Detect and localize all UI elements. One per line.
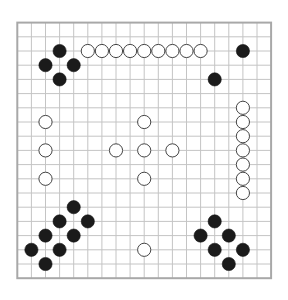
board-intersection[interactable] (109, 115, 123, 129)
board-intersection[interactable] (123, 58, 137, 72)
board-intersection[interactable] (53, 257, 67, 271)
board-intersection[interactable] (81, 229, 95, 243)
board-intersection[interactable] (38, 72, 52, 86)
board-intersection[interactable] (95, 87, 109, 101)
board-intersection[interactable] (123, 101, 137, 115)
board-intersection[interactable] (123, 30, 137, 44)
board-intersection[interactable] (95, 30, 109, 44)
board-intersection[interactable] (95, 186, 109, 200)
board-intersection[interactable] (95, 229, 109, 243)
board-intersection[interactable] (10, 158, 24, 172)
board-intersection[interactable] (81, 101, 95, 115)
board-intersection[interactable] (208, 87, 222, 101)
board-intersection[interactable] (151, 200, 165, 214)
board-intersection[interactable] (222, 72, 236, 86)
board-intersection[interactable] (67, 87, 81, 101)
board-intersection[interactable] (151, 72, 165, 86)
board-intersection[interactable] (10, 214, 24, 228)
board-intersection[interactable] (38, 214, 52, 228)
board-intersection[interactable] (151, 257, 165, 271)
board-intersection[interactable] (95, 158, 109, 172)
board-intersection[interactable] (137, 229, 151, 243)
board-intersection[interactable] (123, 158, 137, 172)
board-intersection[interactable] (95, 58, 109, 72)
board-intersection[interactable] (109, 158, 123, 172)
board-intersection[interactable] (53, 200, 67, 214)
board-intersection[interactable] (179, 257, 193, 271)
board-intersection[interactable] (264, 101, 278, 115)
board-intersection[interactable] (95, 101, 109, 115)
board-intersection[interactable] (81, 158, 95, 172)
board-intersection[interactable] (250, 172, 264, 186)
board-intersection[interactable] (10, 257, 24, 271)
board-intersection[interactable] (194, 72, 208, 86)
board-intersection[interactable] (81, 143, 95, 157)
board-intersection[interactable] (67, 186, 81, 200)
board-intersection[interactable] (53, 16, 67, 30)
board-intersection[interactable] (109, 101, 123, 115)
board-intersection[interactable] (250, 101, 264, 115)
board-intersection[interactable] (53, 271, 67, 285)
board-intersection[interactable] (81, 172, 95, 186)
board-intersection[interactable] (208, 115, 222, 129)
board-intersection[interactable] (95, 271, 109, 285)
board-intersection[interactable] (109, 58, 123, 72)
board-intersection[interactable] (123, 87, 137, 101)
board-intersection[interactable] (222, 243, 236, 257)
board-intersection[interactable] (179, 243, 193, 257)
board-intersection[interactable] (222, 158, 236, 172)
board-intersection[interactable] (208, 257, 222, 271)
board-intersection[interactable] (109, 72, 123, 86)
board-intersection[interactable] (81, 58, 95, 72)
board-intersection[interactable] (222, 200, 236, 214)
board-intersection[interactable] (109, 243, 123, 257)
board-intersection[interactable] (137, 30, 151, 44)
board-intersection[interactable] (222, 30, 236, 44)
board-intersection[interactable] (24, 200, 38, 214)
board-intersection[interactable] (151, 186, 165, 200)
board-intersection[interactable] (24, 58, 38, 72)
board-intersection[interactable] (137, 200, 151, 214)
board-intersection[interactable] (10, 44, 24, 58)
board-intersection[interactable] (10, 229, 24, 243)
board-intersection[interactable] (264, 200, 278, 214)
board-intersection[interactable] (236, 87, 250, 101)
board-intersection[interactable] (10, 101, 24, 115)
board-intersection[interactable] (208, 200, 222, 214)
board-intersection[interactable] (151, 58, 165, 72)
board-intersection[interactable] (264, 172, 278, 186)
board-intersection[interactable] (24, 271, 38, 285)
board-intersection[interactable] (264, 87, 278, 101)
board-intersection[interactable] (123, 200, 137, 214)
board-intersection[interactable] (179, 143, 193, 157)
board-intersection[interactable] (250, 44, 264, 58)
board-intersection[interactable] (165, 172, 179, 186)
board-intersection[interactable] (137, 158, 151, 172)
board-intersection[interactable] (165, 214, 179, 228)
board-intersection[interactable] (151, 87, 165, 101)
board-intersection[interactable] (151, 30, 165, 44)
board-intersection[interactable] (194, 129, 208, 143)
board-intersection[interactable] (165, 72, 179, 86)
board-intersection[interactable] (109, 257, 123, 271)
board-intersection[interactable] (123, 257, 137, 271)
board-intersection[interactable] (109, 229, 123, 243)
board-intersection[interactable] (179, 172, 193, 186)
board-intersection[interactable] (208, 143, 222, 157)
board-intersection[interactable] (208, 129, 222, 143)
board-intersection[interactable] (81, 186, 95, 200)
board-intersection[interactable] (67, 101, 81, 115)
board-intersection[interactable] (179, 271, 193, 285)
board-intersection[interactable] (250, 200, 264, 214)
board-intersection[interactable] (222, 44, 236, 58)
board-intersection[interactable] (165, 243, 179, 257)
board-intersection[interactable] (250, 58, 264, 72)
board-intersection[interactable] (10, 172, 24, 186)
board-intersection[interactable] (67, 115, 81, 129)
board-intersection[interactable] (67, 129, 81, 143)
board-intersection[interactable] (179, 58, 193, 72)
board-intersection[interactable] (165, 257, 179, 271)
board-intersection[interactable] (109, 87, 123, 101)
board-intersection[interactable] (165, 271, 179, 285)
board-intersection[interactable] (208, 44, 222, 58)
